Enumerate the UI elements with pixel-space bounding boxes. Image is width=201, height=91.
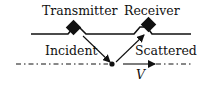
receiver-icon <box>141 17 157 33</box>
receiver-label: Receiver <box>124 3 180 18</box>
target-dot <box>109 61 114 66</box>
transmitter-label: Transmitter <box>42 3 118 18</box>
incident-label: Incident <box>45 43 97 58</box>
velocity-label: V <box>136 67 147 82</box>
scattering-diagram: Transmitter Receiver Incident Scattered … <box>0 0 201 91</box>
scattered-label: Scattered <box>135 43 197 58</box>
baseline <box>31 27 191 34</box>
